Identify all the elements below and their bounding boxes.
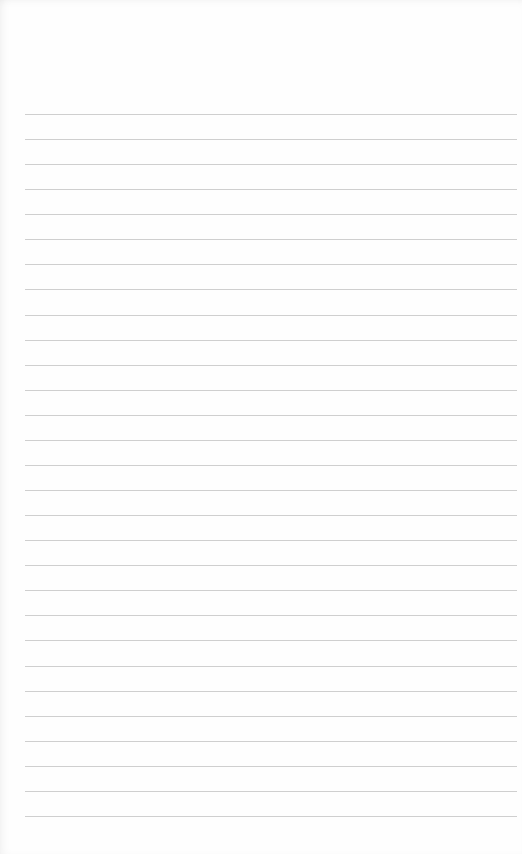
- ruled-line: [25, 189, 517, 190]
- ruled-line: [25, 816, 517, 817]
- ruled-line: [25, 214, 517, 215]
- lined-paper-page: [0, 0, 522, 854]
- ruled-line: [25, 164, 517, 165]
- ruled-line: [25, 515, 517, 516]
- ruled-line: [25, 289, 517, 290]
- ruled-line: [25, 139, 517, 140]
- ruled-line: [25, 264, 517, 265]
- ruled-line: [25, 666, 517, 667]
- ruled-line: [25, 691, 517, 692]
- ruled-line: [25, 390, 517, 391]
- ruled-line: [25, 590, 517, 591]
- ruled-line: [25, 716, 517, 717]
- ruled-line: [25, 540, 517, 541]
- ruled-line: [25, 741, 517, 742]
- ruled-line: [25, 640, 517, 641]
- ruled-line: [25, 766, 517, 767]
- ruled-line: [25, 114, 517, 115]
- ruled-line: [25, 365, 517, 366]
- ruled-line: [25, 239, 517, 240]
- ruled-line: [25, 340, 517, 341]
- ruled-line: [25, 565, 517, 566]
- ruled-line: [25, 415, 517, 416]
- ruled-line: [25, 440, 517, 441]
- ruled-line: [25, 465, 517, 466]
- ruled-line: [25, 315, 517, 316]
- ruled-line: [25, 490, 517, 491]
- ruled-line: [25, 615, 517, 616]
- ruled-line: [25, 791, 517, 792]
